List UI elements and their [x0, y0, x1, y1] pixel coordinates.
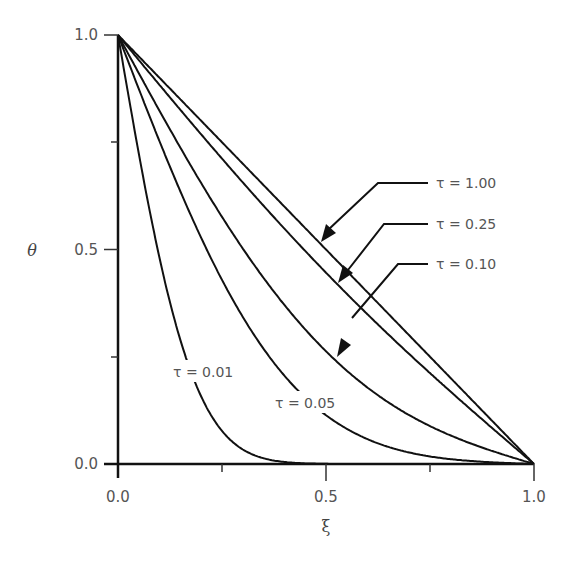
x-axis-title: ξ	[322, 517, 331, 536]
y-tick-label-05: 0.5	[74, 241, 98, 259]
curve-label-tau-001: τ = 0.01	[173, 364, 233, 380]
annotation-arrows	[328, 183, 428, 318]
arrow-tau-100	[328, 183, 428, 230]
y-tick-label-1: 1.0	[74, 26, 98, 44]
x-tick-label-05: 0.5	[314, 488, 338, 506]
arrowhead-tau-010	[337, 338, 351, 357]
curve-label-tau-005: τ = 0.05	[275, 395, 335, 411]
x-tick-label-1: 1.0	[522, 488, 546, 506]
arrowhead-tau-100	[321, 224, 336, 242]
arrow-heads	[321, 224, 353, 357]
y-tick-label-0: 0.0	[74, 455, 98, 473]
annotation-tau-100: τ = 1.00	[436, 175, 496, 191]
x-tick-label-0: 0.0	[106, 488, 130, 506]
y-axis-title: θ	[27, 241, 37, 260]
annotation-tau-010: τ = 0.10	[436, 256, 496, 272]
chart: 1.0 0.5 0.0 0.0 0.5 1.0 θ ξ τ = 0.01 τ =…	[0, 0, 576, 564]
annotation-tau-025: τ = 0.25	[436, 216, 496, 232]
